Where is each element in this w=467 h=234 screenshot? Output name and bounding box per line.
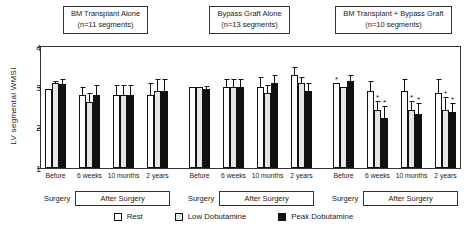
error-bar [121, 85, 126, 96]
bar-rest [257, 87, 264, 168]
bar-panel: Before6 weeks10 months2 years [185, 47, 316, 168]
x-tick-label: 6 weeks [77, 172, 102, 179]
rest-swatch-icon [114, 213, 122, 221]
error-bar [265, 85, 270, 94]
significance-asterisk: * [335, 78, 338, 82]
error-bar [443, 97, 448, 110]
error-bar [409, 101, 414, 110]
plot-area: 4321 Before6 weeks10 months2 yearsBefore… [40, 46, 461, 169]
bar-rest: * [333, 83, 340, 168]
significance-asterisk: * [417, 98, 420, 102]
bar-group: 6 weeks [79, 95, 100, 168]
error-bar [60, 79, 65, 85]
bar-rest [113, 95, 120, 168]
error-bar [348, 75, 353, 82]
panel-title-cell: Bypass Graft Alone(n=13 segments) [184, 6, 315, 34]
bar-peak-dobutamine: * [449, 112, 456, 169]
bar-low-dobutamine [154, 91, 161, 168]
error-bar [128, 85, 133, 96]
bar-panel: Before6 weeks10 months2 years [41, 47, 172, 168]
after-surgery-box: After Surgery [219, 191, 314, 206]
panel-title-line1: BM Transplant Alone [71, 9, 140, 20]
bar-rest [79, 95, 86, 168]
low-dobutamine-swatch-icon [175, 213, 183, 221]
error-bar [231, 79, 236, 88]
y-axis-title: LV segmental WMSI [2, 46, 16, 167]
error-bar [155, 79, 160, 92]
error-bar [272, 75, 277, 84]
legend: Rest Low Dobutamine Peak Dobutamine [0, 212, 467, 221]
x-tick-label: 2 years [290, 172, 312, 179]
significance-asterisk: * [451, 98, 454, 102]
panel-title-line2: (n=11 segments) [71, 20, 140, 31]
error-bar [94, 85, 99, 96]
bar-peak-dobutamine: * [381, 118, 388, 168]
x-tick-label: 10 months [396, 172, 428, 179]
error-bar [402, 79, 407, 92]
x-tick-label: 6 weeks [365, 172, 390, 179]
panel-title-line1: BM Transplant + Bypass Graft [343, 9, 443, 20]
figure: BM Transplant Alone(n=11 segments)Bypass… [0, 0, 467, 234]
bar-rest [291, 75, 298, 168]
bar-peak-dobutamine [203, 89, 210, 168]
bar-peak-dobutamine [305, 91, 312, 168]
surgery-label: Surgery [328, 194, 362, 203]
error-bar [306, 83, 311, 92]
error-bar [238, 79, 243, 88]
legend-label-peak-dobutamine: Peak Dobutamine [291, 212, 353, 221]
error-bar [80, 87, 85, 96]
after-surgery-box: After Surgery [363, 191, 458, 206]
bar-low-dobutamine [298, 83, 305, 168]
bar-low-dobutamine: * [442, 110, 449, 169]
significance-asterisk: * [410, 96, 413, 100]
bar-low-dobutamine [86, 102, 93, 169]
x-tick-label: Before [333, 172, 353, 179]
bar-peak-dobutamine [93, 95, 100, 168]
panel-title-line1: Bypass Graft Alone [217, 9, 281, 20]
legend-label-low-dobutamine: Low Dobutamine [188, 212, 247, 221]
bar-group: 6 weeks [223, 87, 244, 168]
surgery-label: Surgery [40, 194, 74, 203]
bar-rest [367, 91, 374, 168]
panel-title: BM Transplant + Bypass Graft(n=10 segmen… [335, 6, 451, 34]
error-bar [87, 93, 92, 102]
peak-dobutamine-swatch-icon [278, 213, 286, 221]
bar-low-dobutamine [340, 87, 347, 168]
surgery-cell: SurgeryAfter Surgery [184, 191, 315, 207]
surgery-row: SurgeryAfter SurgerySurgeryAfter Surgery… [40, 191, 459, 207]
error-bar [375, 101, 380, 110]
bar-peak-dobutamine [161, 91, 168, 168]
x-tick-label: 10 months [108, 172, 140, 179]
bar-group: Before [189, 87, 210, 168]
bar-group: **10 months [401, 91, 422, 168]
x-tick-label: 6 weeks [221, 172, 246, 179]
error-bar [436, 79, 441, 94]
error-bar [299, 77, 304, 84]
bar-rest [189, 87, 196, 168]
error-bar [416, 103, 421, 114]
bar-rest [147, 95, 154, 168]
error-bar [292, 67, 297, 76]
bar-low-dobutamine [264, 93, 271, 168]
legend-item-low-dobutamine: Low Dobutamine [175, 212, 247, 221]
bar-low-dobutamine [196, 87, 203, 168]
bar-group: **2 years [435, 93, 456, 168]
bar-peak-dobutamine: * [415, 114, 422, 169]
error-bar [114, 85, 119, 96]
error-bar [224, 79, 229, 88]
panel-titles-row: BM Transplant Alone(n=11 segments)Bypass… [40, 6, 459, 40]
error-bar [162, 79, 167, 92]
bar-peak-dobutamine [59, 84, 66, 168]
significance-asterisk: * [376, 96, 379, 100]
bar-peak-dobutamine [271, 83, 278, 168]
legend-item-rest: Rest [114, 212, 143, 221]
bar-low-dobutamine [120, 95, 127, 168]
bar-group: 2 years [291, 75, 312, 168]
bar-group: 10 months [113, 95, 134, 168]
bar-rest [435, 93, 442, 168]
surgery-cell: SurgeryAfter Surgery [40, 191, 171, 207]
y-tick-mark [37, 168, 41, 169]
x-tick-label: 2 years [434, 172, 456, 179]
significance-asterisk: * [383, 101, 386, 105]
error-bar [204, 86, 209, 90]
